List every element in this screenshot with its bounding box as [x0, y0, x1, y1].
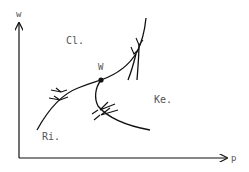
arrow-icon [131, 47, 139, 54]
arrow-icon [54, 88, 61, 100]
y-axis-label: w [16, 9, 22, 19]
arrow-icon [92, 110, 100, 120]
arrow-icon [100, 102, 115, 110]
x-axis-label: p [231, 153, 236, 163]
boundary-cl-ke-branch-2 [128, 54, 136, 80]
region-label-ri: Ri. [42, 131, 60, 142]
region-label-ke: Ke. [154, 94, 172, 105]
boundary-ri-ke [96, 80, 150, 130]
triple-point-marker [98, 77, 103, 82]
triple-point-label: W [98, 62, 104, 72]
phase-diagram: w p W Cl. Ke. Ri. [0, 0, 249, 172]
region-label-cl: Cl. [66, 35, 84, 46]
boundary-ri-cl [37, 80, 101, 130]
